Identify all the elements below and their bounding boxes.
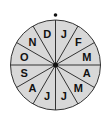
month-wheel: JFMAMJJASOND (0, 0, 110, 126)
month-label: M (74, 82, 83, 94)
month-label: N (29, 36, 37, 48)
month-label: M (82, 51, 91, 63)
center-hub (53, 63, 58, 68)
month-label: S (21, 67, 28, 79)
month-label: A (29, 82, 37, 94)
top-marker-dot (54, 13, 58, 17)
month-label: D (43, 28, 51, 40)
month-label: F (75, 36, 82, 48)
month-label: J (61, 90, 67, 102)
month-label: A (83, 67, 91, 79)
month-label: J (61, 28, 67, 40)
month-label: O (20, 51, 29, 63)
month-label: J (44, 90, 50, 102)
